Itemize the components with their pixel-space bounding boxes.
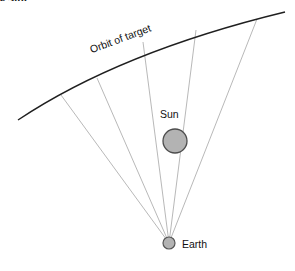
orbit-diagram-figure: e Sun Orbit of target Sun Earth	[0, 0, 295, 271]
earth-body	[163, 237, 175, 249]
diagram-canvas	[0, 0, 295, 271]
sun-label: Sun	[160, 108, 179, 120]
earth-label: Earth	[182, 238, 207, 250]
orbit-curve	[18, 12, 285, 120]
sun-body	[163, 129, 187, 153]
